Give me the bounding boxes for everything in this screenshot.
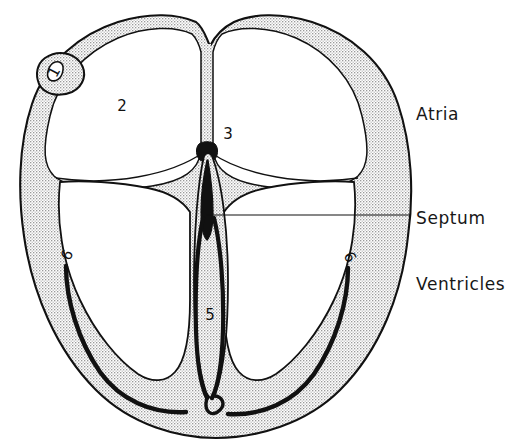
callout-2: 2 xyxy=(117,97,127,115)
heart-diagram-figure: 1 2 3 4 5 6 6 Atria Septum Ventricles xyxy=(0,0,521,447)
label-atria: Atria xyxy=(416,104,459,124)
callout-5: 5 xyxy=(205,306,215,324)
interatrial-septum xyxy=(203,44,211,150)
label-ventricles: Ventricles xyxy=(416,274,505,294)
label-septum: Septum xyxy=(416,208,486,228)
callout-3: 3 xyxy=(223,125,233,143)
callout-4: 4 xyxy=(202,190,212,208)
